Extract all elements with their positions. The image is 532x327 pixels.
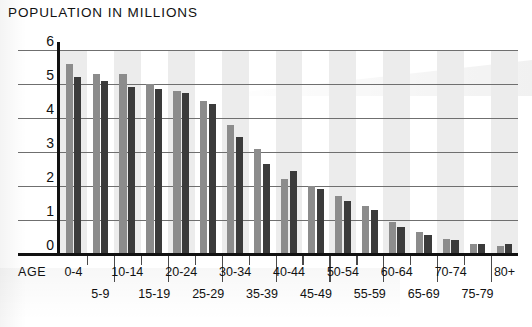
bar-dark: [344, 201, 351, 254]
x-axis-label: 40-44: [263, 265, 315, 279]
bar-group: [491, 50, 518, 254]
y-axis-label: 1: [16, 203, 54, 219]
bar-light: [308, 186, 315, 254]
x-axis-tick: [195, 256, 196, 265]
bar-light: [93, 74, 100, 254]
bar-group: [437, 50, 464, 254]
bar-group: [168, 50, 195, 254]
bar-light: [146, 84, 153, 254]
bar-group: [141, 50, 168, 254]
bar-dark: [101, 81, 108, 254]
bar-light: [416, 232, 423, 254]
bar-dark: [424, 235, 431, 254]
bar-group: [464, 50, 491, 254]
x-axis-label: 10-14: [101, 265, 153, 279]
bar-dark: [209, 104, 216, 254]
x-axis-tick: [356, 256, 357, 265]
x-axis-tick: [302, 256, 303, 265]
y-axis-label: 4: [16, 101, 54, 117]
y-axis-label: 2: [16, 169, 54, 185]
y-axis-label: 3: [16, 135, 54, 151]
bar-light: [362, 206, 369, 254]
y-axis-tick: [18, 84, 57, 85]
bar-light: [443, 239, 450, 254]
bar-dark: [155, 89, 162, 254]
bar-group: [276, 50, 303, 254]
bar-dark: [371, 210, 378, 254]
bar-group: [222, 50, 249, 254]
x-axis-tick: [87, 256, 88, 265]
bar-light: [254, 149, 261, 254]
y-axis-tick: [18, 50, 57, 51]
x-axis-label: 75-79: [452, 287, 504, 301]
bar-light: [119, 74, 126, 254]
y-axis-label: 0: [16, 237, 54, 253]
x-axis-label: 35-39: [236, 287, 288, 301]
y-axis-label: 6: [16, 33, 54, 49]
x-axis-label: 15-19: [128, 287, 180, 301]
bar-group: [249, 50, 276, 254]
x-axis-tick: [141, 256, 142, 265]
x-axis-label: 30-34: [209, 265, 261, 279]
chart-title: POPULATION IN MILLIONS: [8, 5, 198, 20]
x-axis-label: 60-64: [371, 265, 423, 279]
bar-dark: [397, 227, 404, 254]
bar-group: [302, 50, 329, 254]
bar-group: [356, 50, 383, 254]
x-axis-label: 20-24: [155, 265, 207, 279]
x-axis-label: 80+: [479, 265, 531, 279]
x-axis-line: [18, 253, 518, 256]
x-axis-tick: [249, 256, 250, 265]
bar-dark: [182, 93, 189, 255]
x-axis-tick: [410, 256, 411, 265]
bar-light: [227, 125, 234, 254]
y-axis-line: [57, 42, 60, 255]
bar-light: [281, 179, 288, 254]
bar-group: [410, 50, 437, 254]
bar-light: [66, 64, 73, 254]
x-axis-label: 0-4: [47, 265, 99, 279]
bar-light: [335, 196, 342, 254]
y-axis-tick: [18, 152, 57, 153]
age-caption: AGE: [18, 265, 46, 279]
y-axis-label: 5: [16, 67, 54, 83]
bar-dark: [74, 77, 81, 254]
bar-group: [329, 50, 356, 254]
bar-light: [389, 222, 396, 254]
bar-group: [87, 50, 114, 254]
x-axis-tick: [464, 256, 465, 265]
bar-dark: [236, 137, 243, 254]
bar-light: [173, 91, 180, 254]
bar-group: [383, 50, 410, 254]
bar-group: [60, 50, 87, 254]
x-axis-label: 50-54: [317, 265, 369, 279]
bar-dark: [290, 171, 297, 254]
bar-dark: [451, 240, 458, 254]
bar-group: [114, 50, 141, 254]
x-axis-label: 25-29: [182, 287, 234, 301]
bar-dark: [263, 164, 270, 254]
x-axis-label: 70-74: [425, 265, 477, 279]
bar-group: [195, 50, 222, 254]
bar-dark: [317, 189, 324, 254]
plot-area: [60, 50, 518, 254]
x-axis-label: 45-49: [290, 287, 342, 301]
y-axis-tick: [18, 186, 57, 187]
bar-dark: [128, 87, 135, 254]
y-axis-tick: [18, 118, 57, 119]
x-axis-label: 55-59: [344, 287, 396, 301]
bar-light: [200, 101, 207, 254]
x-axis-label: 65-69: [398, 287, 450, 301]
y-axis-tick: [18, 220, 57, 221]
x-axis-label: 5-9: [74, 287, 126, 301]
